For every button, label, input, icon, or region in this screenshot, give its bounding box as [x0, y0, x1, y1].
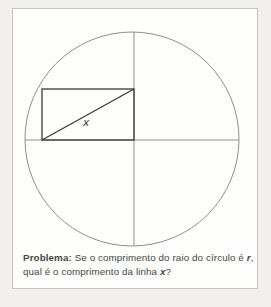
- caption-line-2: qual é o comprimento da linha x?: [23, 265, 251, 279]
- caption-bold-label: Problema:: [23, 252, 72, 263]
- caption-line1-after: ,: [251, 252, 254, 263]
- problem-card: x Problema: Se o comprimento do raio do …: [12, 8, 258, 289]
- circle: [25, 32, 239, 246]
- page-background: x Problema: Se o comprimento do raio do …: [0, 0, 271, 307]
- problem-caption: Problema: Se o comprimento do raio do cí…: [23, 251, 251, 278]
- circle-diagram: x: [13, 9, 257, 249]
- x-label: x: [82, 116, 90, 128]
- caption-line2-text: qual é o comprimento da linha: [23, 266, 160, 277]
- caption-line1-text: Se o comprimento do raio do círculo é: [72, 252, 247, 263]
- diagonal-line-x: [42, 89, 134, 140]
- caption-line2-after: ?: [166, 266, 172, 277]
- caption-line-1: Problema: Se o comprimento do raio do cí…: [23, 251, 251, 265]
